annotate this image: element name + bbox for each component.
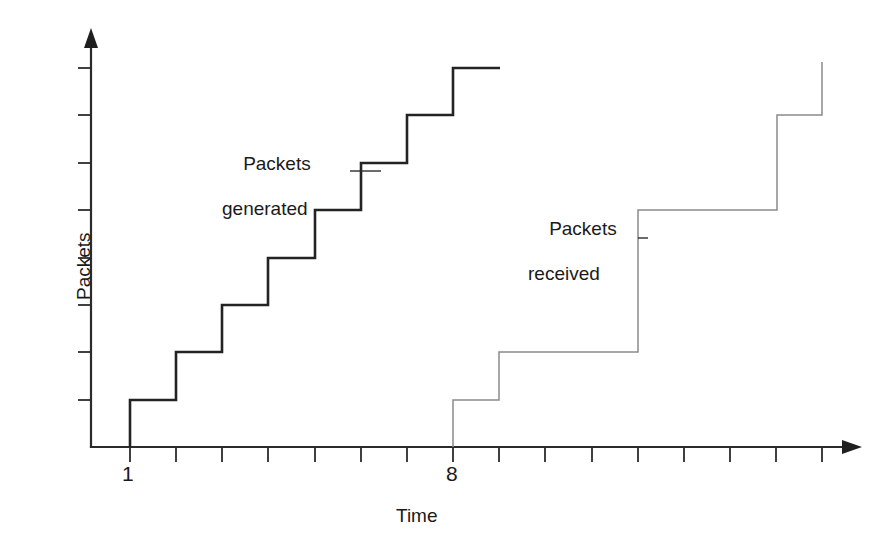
annotation-generated-line2: generated	[222, 198, 311, 220]
annotation-packets-generated: Packets generated	[222, 131, 311, 265]
chart-figure: Packets Time 1 8 Packets generated Packe…	[0, 0, 876, 547]
annotation-packets-received: Packets received	[528, 196, 617, 330]
x-tick-label-8: 8	[446, 462, 458, 487]
y-axis-label: Packets	[6, 66, 118, 196]
y-axis-arrow-icon	[84, 28, 98, 48]
annotation-generated-line1: Packets	[243, 153, 311, 174]
series-packets-received	[453, 62, 822, 447]
annotation-received-line1: Packets	[549, 218, 617, 239]
x-axis	[91, 440, 862, 462]
x-axis-arrow-icon	[842, 440, 862, 454]
x-axis-label: Time	[396, 505, 438, 527]
annotation-received-line2: received	[528, 263, 617, 285]
x-tick-label-1: 1	[122, 462, 134, 487]
x-axis-ticks	[130, 447, 822, 462]
y-axis-label-text: Packets	[73, 170, 95, 300]
series-packets-generated	[130, 68, 500, 447]
